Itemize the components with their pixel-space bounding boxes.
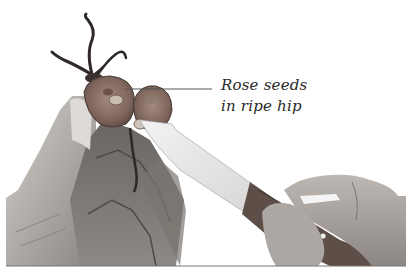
rose-hip-sepals	[52, 14, 126, 78]
rose-hip-figure: Rose seeds in ripe hip	[0, 0, 416, 273]
annotation-line-1: Rose seeds	[221, 75, 307, 96]
annotation-line-2: in ripe hip	[221, 96, 307, 117]
annotation-label: Rose seeds in ripe hip	[221, 75, 307, 117]
rose-hip-photo	[0, 0, 416, 273]
